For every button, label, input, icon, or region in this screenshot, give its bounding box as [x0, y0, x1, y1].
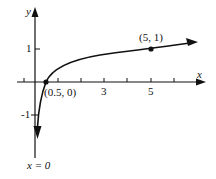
point-0.5-0 [43, 79, 48, 84]
x-axis-label: x [197, 69, 202, 80]
point-5-1-label: (5, 1) [139, 32, 163, 43]
y-tick-1-label: 1 [26, 43, 32, 54]
curve-end-arrow-icon [186, 38, 198, 46]
y-axis-label: y [26, 6, 31, 17]
asymptote-label: x = 0 [27, 160, 50, 171]
y-tick-neg1-label: -1 [21, 109, 30, 120]
graph-canvas [0, 0, 216, 179]
point-5-1 [148, 46, 153, 51]
x-tick-3-label: 3 [101, 86, 107, 97]
y-axis-arrow-icon [32, 7, 39, 17]
x-tick-5-label: 5 [148, 86, 154, 97]
point-0.5-0-label: (0.5, 0) [44, 87, 76, 98]
